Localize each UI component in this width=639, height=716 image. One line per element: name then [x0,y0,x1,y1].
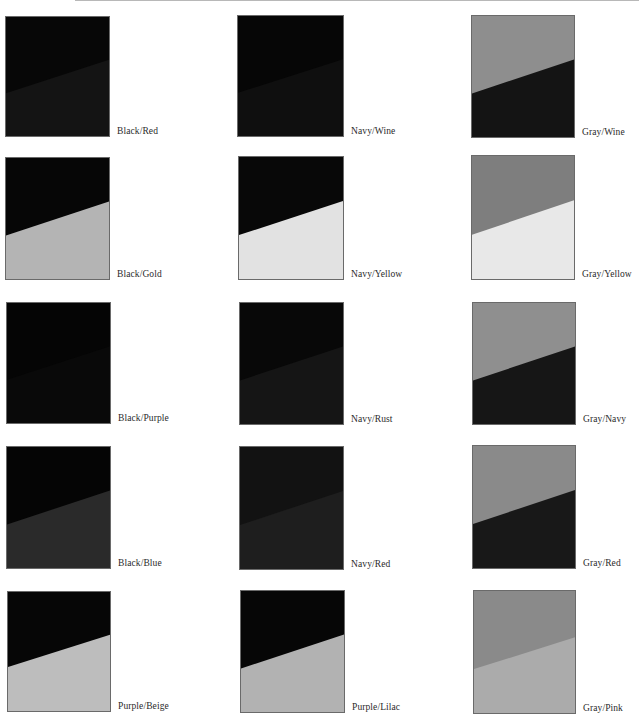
color-swatch [7,591,111,712]
color-swatch [5,157,110,280]
color-swatch [6,302,111,424]
swatch-split-graphic [7,303,110,423]
color-swatch [237,15,344,137]
color-swatch [472,445,576,569]
swatch-label: Gray/Red [583,558,621,568]
swatch-label: Navy/Yellow [351,269,402,279]
swatch-label: Gray/Navy [583,414,626,424]
color-swatch [5,16,110,137]
swatch-split-graphic [238,16,343,136]
swatch-label: Gray/Wine [582,127,625,137]
swatch-split-graphic [241,591,344,712]
swatch-split-graphic [472,156,574,279]
swatch-split-graphic [6,17,109,136]
swatch-split-graphic [474,591,575,713]
swatch-label: Navy/Red [351,559,390,569]
swatch-label: Navy/Rust [351,414,393,424]
swatch-label: Purple/Lilac [352,702,400,712]
swatch-label: Purple/Beige [118,701,169,711]
color-swatch [238,156,344,280]
swatch-label: Black/Red [117,126,158,136]
color-swatch [239,302,344,425]
swatch-label: Gray/Yellow [582,269,632,279]
swatch-split-graphic [6,158,109,279]
swatch-split-graphic [472,16,574,137]
color-swatch [471,155,575,280]
page-top-rule [75,0,639,1]
swatch-label: Gray/Pink [583,703,623,713]
swatch-split-graphic [240,303,343,424]
color-swatch [471,15,575,138]
color-swatch [472,302,576,425]
color-swatch [240,590,345,713]
color-swatch [239,446,344,570]
swatch-split-graphic [7,447,110,568]
swatch-label: Black/Blue [118,558,162,568]
swatch-label: Black/Gold [117,269,162,279]
swatch-split-graphic [239,157,343,279]
swatch-label: Black/Purple [118,413,169,423]
color-swatch [473,590,576,714]
swatch-split-graphic [473,303,575,424]
swatch-split-graphic [8,592,110,711]
color-swatch [6,446,111,569]
swatch-label: Navy/Wine [351,126,395,136]
swatch-split-graphic [473,446,575,568]
swatch-split-graphic [240,447,343,569]
